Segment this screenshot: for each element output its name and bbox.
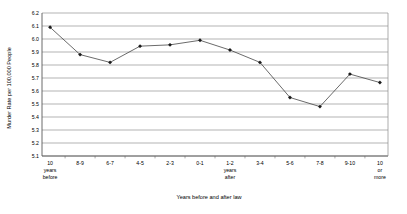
chart-background [0, 0, 407, 214]
x-axis-tick-label: 9-10 [345, 160, 355, 166]
y-axis-title: Murder Rate per 100,000 People [6, 47, 12, 128]
x-axis-tick-label: 4-5 [136, 160, 144, 166]
x-axis-tick-label: 10 [377, 160, 383, 166]
x-axis-tick-label: more [374, 174, 386, 180]
x-axis-tick-label: years [224, 167, 237, 173]
y-axis-tick-label: 5.9 [32, 49, 39, 55]
y-axis-tick-label: 5.4 [32, 114, 39, 120]
y-axis-tick-label: 6.1 [32, 23, 39, 29]
y-axis-tick-label: 5.6 [32, 88, 39, 94]
murder-rate-line-chart: 6.26.16.05.95.85.75.65.55.45.35.25.1 10y… [0, 0, 407, 214]
y-axis-tick-label: 5.8 [32, 62, 39, 68]
y-axis-tick-label: 5.1 [32, 153, 39, 159]
x-axis-tick-label: 1-2 [226, 160, 234, 166]
y-axis-tick-label: 5.2 [32, 140, 39, 146]
x-axis-tick-label: 0-1 [196, 160, 204, 166]
x-axis-tick-label: 3-4 [256, 160, 264, 166]
x-axis-tick-label: 5-6 [286, 160, 294, 166]
chart-canvas: 6.26.16.05.95.85.75.65.55.45.35.25.1 10y… [0, 0, 407, 214]
x-axis-tick-label: 2-3 [166, 160, 174, 166]
y-axis-tick-label: 6.0 [32, 36, 39, 42]
x-axis-tick-label: after [225, 174, 236, 180]
y-axis-tick-label: 6.2 [32, 10, 39, 16]
x-axis-tick-label: 7-8 [316, 160, 324, 166]
x-axis-title: Years before and after law [176, 194, 242, 200]
x-axis-tick-label: 10 [47, 160, 53, 166]
x-axis-tick-label: years [44, 167, 57, 173]
x-axis-tick-label: 6-7 [106, 160, 114, 166]
x-axis-tick-label: or [378, 167, 383, 173]
y-axis-tick-label: 5.5 [32, 101, 39, 107]
x-axis-tick-label: before [43, 174, 58, 180]
x-axis-tick-label: 8-9 [76, 160, 84, 166]
y-axis-tick-label: 5.7 [32, 75, 39, 81]
y-axis-tick-label: 5.3 [32, 127, 39, 133]
